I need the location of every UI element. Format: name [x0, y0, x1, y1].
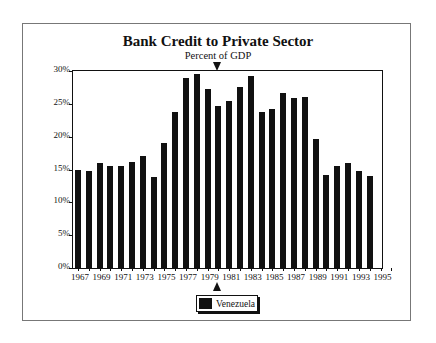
- x-tick: [283, 268, 284, 271]
- chart-subtitle: Percent of GDP: [0, 50, 436, 61]
- bar: [313, 139, 319, 268]
- x-tick: [359, 268, 360, 271]
- x-tick: [240, 268, 241, 271]
- x-tick: [337, 268, 338, 271]
- bar: [194, 74, 200, 268]
- bar: [259, 112, 265, 268]
- x-tick: [294, 268, 295, 271]
- x-tick: [175, 268, 176, 271]
- x-tick: [348, 268, 349, 271]
- bar: [334, 166, 340, 268]
- x-tick: [164, 268, 165, 271]
- x-tick: [381, 268, 382, 271]
- x-tick: [370, 268, 371, 271]
- bar: [118, 166, 124, 268]
- x-tick: [100, 268, 101, 271]
- y-tick-label: 25%: [30, 97, 70, 107]
- y-tick-label: 0%: [30, 261, 70, 271]
- bar: [97, 163, 103, 268]
- plot-area: [72, 70, 383, 269]
- x-tick-label: 1995: [368, 272, 398, 282]
- x-tick: [326, 268, 327, 271]
- x-tick: [121, 268, 122, 271]
- y-tick-label: 10%: [30, 195, 70, 205]
- x-tick: [262, 268, 263, 271]
- bar: [345, 163, 351, 268]
- bar: [291, 98, 297, 268]
- x-tick: [78, 268, 79, 271]
- bar: [107, 166, 113, 268]
- x-tick: [154, 268, 155, 271]
- bar: [367, 176, 373, 268]
- y-tick-label: 30%: [30, 64, 70, 74]
- bar: [302, 97, 308, 268]
- bar: [140, 156, 146, 268]
- bar: [248, 76, 254, 268]
- x-tick: [218, 268, 219, 271]
- bar: [323, 175, 329, 268]
- x-tick: [89, 268, 90, 271]
- x-tick: [305, 268, 306, 271]
- x-tick: [229, 268, 230, 271]
- triangle-marker-icon: [213, 282, 221, 291]
- x-tick: [272, 268, 273, 271]
- bar: [75, 170, 81, 269]
- legend-label: Venezuela: [216, 299, 255, 309]
- x-tick: [391, 268, 392, 271]
- y-tick-label: 15%: [30, 163, 70, 173]
- x-tick: [186, 268, 187, 271]
- legend: Venezuela: [196, 295, 258, 312]
- y-tick-label: 5%: [30, 228, 70, 238]
- x-tick: [197, 268, 198, 271]
- bar: [183, 78, 189, 268]
- bar: [226, 101, 232, 268]
- bar: [205, 89, 211, 268]
- bar: [356, 171, 362, 268]
- bar: [161, 143, 167, 268]
- x-tick: [143, 268, 144, 271]
- bar: [129, 162, 135, 268]
- x-tick: [251, 268, 252, 271]
- bar: [172, 112, 178, 268]
- bar: [269, 109, 275, 268]
- x-tick: [132, 268, 133, 271]
- chart-title: Bank Credit to Private Sector: [0, 33, 436, 50]
- bar: [280, 93, 286, 268]
- x-tick: [110, 268, 111, 271]
- bar: [215, 106, 221, 268]
- x-tick: [316, 268, 317, 271]
- bar: [86, 171, 92, 268]
- legend-swatch: [199, 298, 212, 309]
- y-tick-label: 20%: [30, 130, 70, 140]
- bar: [237, 87, 243, 268]
- x-tick: [208, 268, 209, 271]
- bar: [151, 177, 157, 268]
